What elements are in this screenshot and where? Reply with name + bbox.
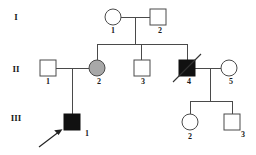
individual-ii-5-label: 5	[229, 77, 233, 86]
generation-label-iii: III	[11, 113, 22, 123]
individual-iii-3-square[interactable]	[224, 114, 240, 130]
individual-iii-3-label: 3	[241, 130, 245, 139]
individual-ii-3-label: 3	[141, 77, 145, 86]
individual-ii-2-label: 2	[97, 77, 101, 86]
pedigree-chart: I II III 1 2 1 2 3 4 5 1	[0, 0, 256, 155]
individual-i-2-square[interactable]	[150, 9, 166, 25]
individual-i-1-label: 1	[111, 26, 115, 35]
generation-label-ii: II	[12, 64, 20, 74]
individual-iii-2-label: 2	[188, 132, 192, 141]
proband-arrow-icon	[39, 129, 63, 147]
pedigree-canvas: I II III 1 2 1 2 3 4 5 1	[0, 0, 256, 155]
individual-ii-3-square[interactable]	[134, 60, 150, 76]
individual-i-1-circle[interactable]	[105, 9, 121, 25]
individual-ii-5-circle[interactable]	[221, 60, 237, 76]
individual-ii-4-label: 4	[187, 77, 191, 86]
individual-i-2-label: 2	[158, 26, 162, 35]
generation-labels: I II III	[11, 12, 22, 123]
generation-label-i: I	[14, 12, 18, 22]
individual-iii-1-square-affected[interactable]	[64, 114, 80, 130]
individual-ii-1-square[interactable]	[40, 60, 56, 76]
individual-iii-1-label: 1	[85, 129, 89, 138]
individual-iii-2-circle[interactable]	[182, 114, 198, 130]
generation-ii-group: 1 2 3 4 5	[40, 54, 237, 86]
individual-ii-1-label: 1	[46, 77, 50, 86]
individual-ii-2-circle-carrier[interactable]	[89, 60, 105, 76]
generation-iii-group: 1 2 3	[39, 114, 245, 147]
